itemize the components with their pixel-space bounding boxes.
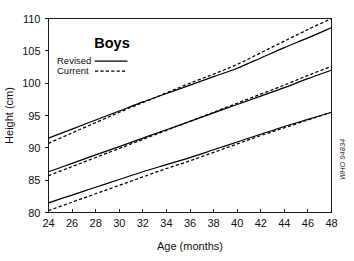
x-tick-label: 40 <box>231 217 243 229</box>
series-line-current-lower <box>49 112 332 210</box>
x-tick-label: 46 <box>302 217 314 229</box>
x-tick-label: 44 <box>278 217 290 229</box>
x-tick-label: 26 <box>66 217 78 229</box>
y-tick-label: 100 <box>22 77 40 89</box>
chart-canvas: 2426283032343638404244464880859095100105… <box>0 0 354 261</box>
x-tick-label: 48 <box>325 217 337 229</box>
y-tick-label: 90 <box>28 142 40 154</box>
chart-title: Boys <box>94 35 129 51</box>
x-tick-label: 38 <box>207 217 219 229</box>
x-axis-title: Age (months) <box>157 240 223 252</box>
x-tick-label: 28 <box>90 217 102 229</box>
x-tick-label: 34 <box>160 217 172 229</box>
legend-label-current: Current <box>57 65 89 76</box>
x-tick-label: 24 <box>42 217 54 229</box>
x-tick-label: 36 <box>184 217 196 229</box>
y-tick-label: 85 <box>28 174 40 186</box>
y-tick-label: 95 <box>28 110 40 122</box>
credit-annotation: WHO 94834 <box>338 139 347 180</box>
x-tick-label: 32 <box>137 217 149 229</box>
y-tick-label: 105 <box>22 45 40 57</box>
x-tick-label: 30 <box>113 217 125 229</box>
y-tick-label: 110 <box>23 13 41 25</box>
growth-chart-figure: 2426283032343638404244464880859095100105… <box>0 0 354 261</box>
plot-frame <box>49 19 332 213</box>
y-tick-label: 80 <box>28 207 40 219</box>
y-axis-title: Height (cm) <box>3 87 15 144</box>
x-tick-label: 42 <box>255 217 267 229</box>
